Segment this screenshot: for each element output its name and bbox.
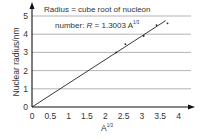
- x-tick-label-2: 2: [103, 111, 108, 121]
- x-tick-label-1.5: 1.5: [81, 111, 93, 121]
- x-tick-label-2.5: 2.5: [118, 111, 130, 121]
- data-point-5: [167, 22, 169, 24]
- x-axis-label-exponent: 1/3: [107, 123, 114, 128]
- y-tick-label-5: 5: [23, 11, 28, 21]
- y-tick-label-3: 3: [23, 47, 28, 57]
- data-point-3: [143, 35, 145, 37]
- x-tick-label-3.5: 3.5: [154, 111, 166, 121]
- y-tick-label-0: 0: [23, 102, 28, 112]
- chart: 00.511.522.533.54012345 Radius = cube ro…: [0, 0, 200, 140]
- y-axis-arrow-icon: [30, 2, 35, 9]
- y-tick-label-1: 1: [23, 84, 28, 94]
- fit-line: [32, 21, 166, 107]
- y-tick-label-4: 4: [23, 29, 28, 39]
- annotation-line-2: number: R = 1.3003 A1/3: [55, 20, 140, 30]
- x-tick-label-0: 0: [30, 111, 35, 121]
- x-tick-label-4: 4: [176, 111, 181, 121]
- y-axis-label: Nuclear radius/nm: [11, 28, 21, 97]
- data-point-1: [115, 52, 117, 54]
- annotation-line-1: Radius = cube root of nucleon: [44, 5, 151, 14]
- annotation-prefix: number:: [55, 21, 87, 30]
- x-axis-label: A1/3: [101, 123, 113, 133]
- x-tick-label-1: 1: [66, 111, 71, 121]
- fit-line-group: [32, 21, 166, 107]
- x-tick-label-3: 3: [140, 111, 145, 121]
- x-axis-arrow-icon: [188, 105, 195, 110]
- annotation-equation: = 1.3003 A: [92, 21, 133, 30]
- annotation-exponent: 1/3: [133, 20, 140, 25]
- axes: [30, 2, 196, 110]
- data-point-2: [124, 43, 126, 45]
- y-tick-label-2: 2: [23, 66, 28, 76]
- data-point-4: [156, 24, 158, 26]
- x-tick-label-0.5: 0.5: [44, 111, 56, 121]
